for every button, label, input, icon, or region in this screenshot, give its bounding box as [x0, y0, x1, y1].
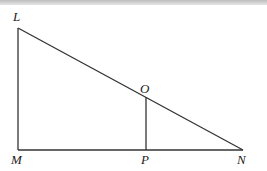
label-l: L [12, 9, 20, 24]
triangle-figure: L M P N O [0, 0, 267, 171]
segment-ln [18, 28, 243, 150]
label-n: N [236, 152, 247, 167]
diagram-canvas: L M P N O [0, 0, 267, 171]
label-m: M [10, 152, 23, 167]
label-p: P [140, 152, 149, 167]
label-o: O [140, 81, 150, 96]
